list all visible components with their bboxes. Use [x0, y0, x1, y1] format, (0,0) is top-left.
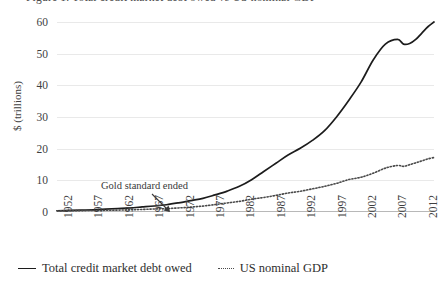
x-axis-tick-label: 1982: [244, 195, 256, 218]
y-axis-tick-label: 30: [37, 111, 49, 123]
x-axis-tick-label: 2012: [427, 195, 439, 218]
y-axis-tick-label: 40: [37, 79, 49, 91]
chart-legend: Total credit market debt owedUS nominal …: [18, 258, 438, 278]
x-axis-tick-label: 1972: [184, 195, 196, 218]
y-axis-tick-label: 50: [37, 48, 49, 60]
x-axis-tick-label: 2007: [396, 195, 408, 218]
legend-item: Total credit market debt owed: [18, 261, 192, 276]
dotted-line-swatch: [218, 268, 234, 269]
solid-line-swatch: [18, 268, 36, 269]
x-axis-tick-label: 1997: [336, 195, 348, 218]
legend-item: US nominal GDP: [218, 261, 328, 276]
chart-container: Figure 1. Total credit market debt owed …: [0, 0, 441, 282]
legend-item-label: Total credit market debt owed: [42, 261, 192, 276]
x-axis-tick-label: 1967: [153, 195, 165, 218]
chart-title-clipped: Figure 1. Total credit market debt owed …: [0, 0, 441, 5]
x-axis-tick-label: 1962: [123, 195, 135, 218]
x-axis-tick-label: 2002: [366, 195, 378, 218]
y-axis-tick-label: 20: [37, 143, 49, 155]
x-axis-tick-label: 1957: [92, 195, 104, 218]
x-axis-tick-label: 1952: [62, 195, 74, 218]
y-axis-tick-label: 60: [37, 16, 49, 28]
x-axis-tick-label: 1977: [214, 195, 226, 218]
x-axis-tick-label: 1987: [275, 195, 287, 218]
x-axis-tick-labels: 1952195719621967197219771982198719921997…: [0, 214, 441, 258]
legend-item-label: US nominal GDP: [240, 261, 328, 276]
annotation-gold-standard-ended: Gold standard ended: [101, 180, 188, 191]
x-axis-tick-label: 1992: [305, 195, 317, 218]
y-axis-tick-label: 10: [37, 174, 49, 186]
